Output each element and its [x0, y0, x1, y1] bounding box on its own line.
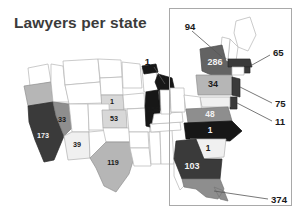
page-title: Lawyers per state: [14, 14, 147, 32]
michigan-callout-label: 1: [145, 56, 151, 67]
state-mississippi: [149, 132, 161, 164]
north-carolina-value-label: 1: [208, 125, 213, 135]
kansas-value-label: 53: [110, 114, 118, 123]
massachusetts-callout-leader: [252, 55, 270, 65]
east-coast-inset-panel: 94 65 75 11 374 286 34 48 1 1 103: [169, 8, 292, 206]
east-coast-inset-map: 94 65 75 11 374 286 34 48 1 1 103: [170, 9, 293, 207]
state-minnesota: [122, 62, 142, 88]
illinois-value-label: 156: [147, 105, 159, 114]
figure-root: Lawyers per state: [0, 0, 300, 223]
state-south-dakota: [100, 77, 123, 95]
state-louisiana: [130, 148, 151, 166]
national-map-svg: 1 173 33 39 53 1 119 156: [8, 40, 193, 215]
inset-state-delaware: [230, 97, 237, 109]
inset-state-florida: [182, 179, 228, 201]
inset-map-svg: 94 65 75 11 374 286 34 48 1 1 103: [170, 9, 293, 207]
massachusetts-callout-label: 65: [273, 47, 284, 58]
inset-state-maryland: [200, 97, 230, 107]
inset-state-massachusetts: [228, 59, 252, 67]
inset-state-connecticut: [232, 67, 244, 75]
new-jersey-callout-label: 75: [275, 98, 286, 109]
california-value-label: 173: [37, 131, 49, 140]
delaware-callout-label: 11: [275, 116, 286, 127]
state-oklahoma: [103, 128, 130, 142]
new-jersey-callout-leader: [240, 87, 272, 103]
virginia-value-label: 48: [205, 109, 215, 119]
inset-state-north-carolina: [184, 121, 242, 141]
state-north-dakota: [98, 59, 122, 78]
georgia-value-label: 103: [184, 161, 199, 171]
pennsylvania-value-label: 34: [208, 79, 218, 89]
state-wyoming: [65, 82, 102, 104]
florida-callout-label: 374: [271, 194, 288, 205]
state-iowa: [123, 93, 145, 109]
arizona-value-label: 39: [73, 140, 81, 149]
new-york-value-label: 286: [207, 57, 222, 67]
state-arkansas: [129, 132, 149, 148]
inset-state-rhode-island: [244, 67, 250, 73]
nebraska-value-label: 1: [110, 97, 114, 106]
national-choropleth-map: 1 173 33 39 53 1 119 156: [8, 40, 193, 215]
texas-value-label: 119: [107, 158, 119, 167]
state-utah: [69, 104, 89, 132]
vermont-callout-label: 94: [185, 21, 196, 32]
south-carolina-value-label: 1: [206, 143, 211, 153]
inset-state-new-jersey: [232, 77, 240, 97]
state-montana: [63, 59, 100, 85]
nevada-value-label: 33: [58, 115, 66, 124]
delaware-callout-leader: [237, 103, 272, 121]
